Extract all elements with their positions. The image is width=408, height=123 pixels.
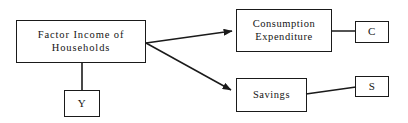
node-s-label: S [369,80,376,93]
node-s: S [355,76,389,97]
node-c-label: C [368,25,376,38]
node-consumption-expenditure-label: Consumption Expenditure [253,18,316,44]
connector-factor-income-to-consumption [146,31,232,43]
node-y: Y [64,90,100,117]
node-y-label: Y [78,97,87,110]
node-consumption-expenditure: Consumption Expenditure [236,9,332,52]
node-factor-income-label: Factor Income of Households [38,29,125,55]
node-savings: Savings [236,78,307,112]
diagram-canvas: Factor Income of Households Y Consumptio… [0,0,408,123]
node-c: C [355,21,389,43]
connector-factor-income-to-savings [146,43,231,90]
node-factor-income: Factor Income of Households [16,20,146,63]
connector-savings-to-s [306,87,356,94]
node-savings-label: Savings [253,89,290,102]
